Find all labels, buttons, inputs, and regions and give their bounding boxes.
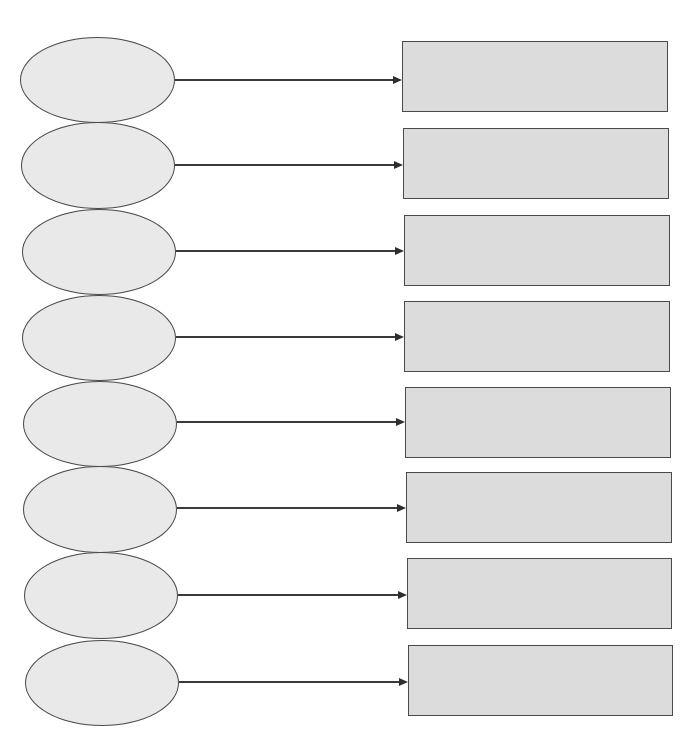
output-box[interactable] — [404, 301, 670, 372]
output-box[interactable] — [403, 128, 669, 199]
input-oval[interactable] — [22, 209, 176, 295]
connector-line — [178, 594, 398, 596]
input-oval[interactable] — [24, 552, 178, 639]
arrow-head-icon — [396, 418, 405, 426]
arrow-head-icon — [395, 247, 404, 255]
input-oval[interactable] — [23, 466, 177, 553]
output-box[interactable] — [406, 472, 672, 543]
connector-line — [175, 79, 393, 81]
output-box[interactable] — [404, 215, 670, 286]
connector-line — [176, 336, 395, 338]
arrow-head-icon — [398, 591, 407, 599]
output-box[interactable] — [408, 645, 673, 716]
output-box[interactable] — [402, 41, 668, 112]
arrow-head-icon — [394, 161, 403, 169]
connector-line — [179, 681, 399, 683]
input-oval[interactable] — [23, 381, 177, 467]
input-oval[interactable] — [25, 640, 179, 726]
arrow-head-icon — [397, 504, 406, 512]
input-oval[interactable] — [20, 37, 175, 123]
input-oval[interactable] — [21, 122, 175, 209]
arrow-head-icon — [399, 678, 408, 686]
connector-line — [176, 250, 395, 252]
output-box[interactable] — [407, 558, 672, 629]
connector-line — [177, 507, 397, 509]
arrow-head-icon — [395, 333, 404, 341]
output-box[interactable] — [405, 387, 671, 458]
connector-line — [177, 421, 396, 423]
flow-diagram — [0, 0, 697, 743]
input-oval[interactable] — [22, 295, 176, 381]
arrow-head-icon — [393, 76, 402, 84]
connector-line — [175, 164, 394, 166]
